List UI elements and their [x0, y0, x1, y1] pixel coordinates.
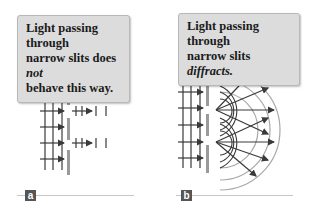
callout-line1: Light passing through: [26, 21, 98, 50]
callout-line1: Light passing through: [187, 19, 259, 48]
callout-line3: behave this way.: [26, 81, 113, 95]
callout-emphasis: not: [26, 66, 43, 80]
panel-a: Light passing through narrow slits does …: [0, 0, 156, 208]
panel-b: Light passing through narrow slits diffr…: [156, 0, 312, 208]
panel-label-a: a: [25, 190, 36, 201]
baseline-b: [176, 195, 293, 196]
callout-emphasis: diffracts.: [187, 64, 233, 78]
callout-diffraction: Light passing through narrow slits diffr…: [178, 13, 300, 86]
callout-line2-prefix: narrow slits does: [26, 51, 116, 65]
callout-line2-prefix: narrow slits: [187, 49, 250, 63]
panel-label-b: b: [181, 190, 192, 201]
callout-no-diffraction: Light passing through narrow slits does …: [17, 15, 130, 103]
